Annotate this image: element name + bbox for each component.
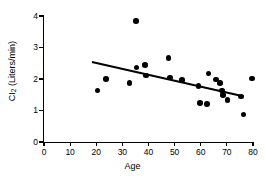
data-point	[217, 80, 223, 86]
x-tick-label: 0	[34, 148, 54, 157]
x-tick-label: 40	[139, 148, 159, 157]
y-tick-label: 1	[24, 106, 38, 115]
y-tick-mark	[39, 15, 43, 16]
y-tick-label: 4	[24, 12, 38, 21]
x-tick-label: 60	[191, 148, 211, 157]
x-tick-mark	[252, 142, 253, 146]
x-tick-label: 10	[60, 148, 80, 157]
x-tick-mark	[96, 142, 97, 146]
y-axis-title-base: CI	[7, 92, 17, 101]
y-tick-mark	[39, 78, 43, 79]
data-point	[225, 97, 231, 103]
data-point	[127, 80, 133, 86]
data-point	[134, 65, 140, 71]
data-point	[143, 73, 149, 79]
y-tick-label: 2	[24, 75, 38, 84]
data-point	[197, 100, 203, 106]
x-tick-mark	[70, 142, 71, 146]
data-point	[133, 18, 139, 24]
y-tick-mark	[39, 47, 43, 48]
x-tick-mark	[174, 142, 175, 146]
plot-area	[44, 16, 253, 142]
data-point	[206, 71, 212, 77]
y-tick-mark	[39, 141, 43, 142]
scatter-plot-figure: 01234 01020304050607080 Age CI2 (Liters/…	[0, 0, 265, 178]
data-point	[204, 101, 210, 107]
x-tick-label: 80	[243, 148, 263, 157]
x-tick-mark	[43, 142, 44, 146]
data-point	[196, 83, 202, 89]
x-tick-label: 70	[217, 148, 237, 157]
x-tick-label: 50	[165, 148, 185, 157]
data-point	[241, 112, 247, 118]
x-tick-mark	[148, 142, 149, 146]
y-axis-title-unit: (Liters/min)	[7, 41, 17, 89]
data-point	[238, 94, 244, 100]
x-axis-title: Age	[0, 161, 265, 171]
x-tick-mark	[200, 142, 201, 146]
x-tick-mark	[122, 142, 123, 146]
y-axis-title-subscript: 2	[10, 89, 17, 93]
data-point	[95, 88, 101, 94]
data-point	[249, 76, 255, 82]
data-point	[167, 75, 173, 81]
data-point	[142, 62, 148, 68]
y-tick-label: 3	[24, 43, 38, 52]
data-point	[166, 55, 172, 61]
x-tick-mark	[226, 142, 227, 146]
x-tick-label: 20	[86, 148, 106, 157]
y-axis-title: CI2 (Liters/min)	[7, 12, 17, 130]
data-point	[103, 76, 109, 82]
y-tick-label: 0	[24, 138, 38, 147]
y-tick-mark	[39, 110, 43, 111]
data-point	[179, 77, 185, 83]
x-tick-label: 30	[112, 148, 132, 157]
